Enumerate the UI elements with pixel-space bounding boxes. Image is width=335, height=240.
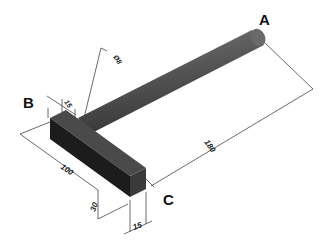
label-point-c: C [163,191,174,208]
dim-block-depth: 15 [132,220,144,232]
label-point-a: A [259,11,270,28]
rod [78,26,268,134]
dim-rod-length: 180 [202,138,217,155]
technical-drawing: A B C Ø8 15 100 30 15 180 [0,0,335,240]
dim-block-length: 100 [59,162,76,177]
dim-rod-diameter: Ø8 [112,54,123,66]
label-point-b: B [23,94,34,111]
drawing-svg: A B C Ø8 15 100 30 15 180 [0,0,335,240]
